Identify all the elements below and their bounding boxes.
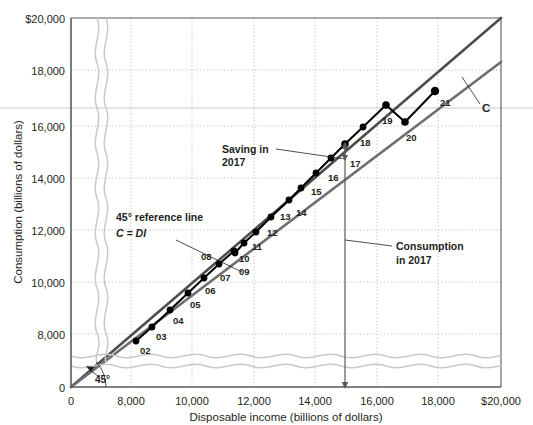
x-tick-14000: 14,000	[298, 395, 332, 407]
x-axis-tick-labels: 0 8,000 10,000 12,000 14,000 16,000 18,0…	[68, 395, 521, 407]
data-point-16	[328, 155, 335, 162]
point-label-05: 05	[190, 299, 201, 310]
angle-label: 45°	[95, 374, 110, 385]
saving-label-line2: 2017	[222, 156, 246, 168]
consumption-label-line1: Consumption	[396, 240, 464, 252]
data-point-06	[201, 275, 208, 282]
data-point-09	[232, 250, 239, 257]
y-tick-8000: 8,000	[37, 329, 65, 341]
x-axis-break-squiggle-top	[71, 354, 501, 358]
x-tick-10000: 10,000	[175, 395, 209, 407]
point-label-19: 19	[382, 115, 393, 126]
data-point-21	[431, 87, 439, 95]
x-axis-break-squiggle-bottom	[71, 364, 501, 368]
point-label-03: 03	[156, 331, 167, 342]
point-label-18: 18	[360, 137, 371, 148]
data-point-04	[167, 307, 174, 314]
consumption-label-line2: in 2017	[396, 254, 432, 266]
saving-label-line1: Saving in	[222, 143, 269, 155]
point-label-20: 20	[406, 132, 417, 143]
y-tick-10000: 10,000	[31, 277, 65, 289]
ref-line-label-line1: 45° reference line	[116, 211, 203, 223]
x-tick-12000: 12,000	[237, 395, 271, 407]
data-point-14	[298, 185, 305, 192]
consumption-measure: Consumption in 2017	[342, 142, 464, 389]
consumption-leader-line	[345, 240, 392, 246]
data-point-02	[133, 338, 140, 345]
point-label-21: 21	[440, 97, 451, 108]
data-point-03	[149, 324, 156, 331]
x-tick-18000: 18,000	[421, 395, 455, 407]
point-label-15: 15	[311, 186, 322, 197]
axis-break-marks	[71, 18, 501, 368]
x-tick-8000: 8,000	[117, 395, 145, 407]
y-tick-20000: $20,000	[25, 13, 65, 25]
point-label-04: 04	[173, 315, 184, 326]
point-label-07: 07	[220, 272, 231, 283]
data-point-05	[185, 290, 192, 297]
data-point-20	[401, 118, 409, 126]
x-tick-20000: $20,000	[481, 395, 521, 407]
x-tick-16000: 16,000	[360, 395, 394, 407]
point-label-06: 06	[205, 285, 216, 296]
reference-line-annotation: 45° reference line C = DI	[116, 211, 242, 272]
x-tick-0: 0	[68, 395, 74, 407]
chart-container: 02 03 04 05 06 07 08 09 10 11 12 13 14 1…	[0, 0, 533, 425]
point-label-11: 11	[252, 241, 263, 252]
y-tick-12000: 12,000	[31, 225, 65, 237]
point-label-02: 02	[140, 345, 151, 356]
y-axis-tick-labels: $20,000 18,000 16,000 14,000 12,000 10,0…	[25, 13, 65, 394]
x-axis-title: Disposable income (billions of dollars)	[189, 411, 382, 423]
ref-line-label-line2: C = DI	[116, 227, 147, 239]
data-point-18	[360, 124, 367, 131]
consumption-function-chart: 02 03 04 05 06 07 08 09 10 11 12 13 14 1…	[0, 0, 533, 425]
y-axis-title: Consumption (billions of dollars)	[12, 120, 24, 284]
point-label-14: 14	[296, 207, 307, 218]
point-label-17: 17	[350, 158, 361, 169]
point-label-10: 10	[239, 253, 250, 264]
y-tick-14000: 14,000	[31, 173, 65, 185]
y-tick-0: 0	[59, 382, 65, 394]
data-point-12	[268, 214, 275, 221]
data-point-11	[253, 229, 260, 236]
point-label-16: 16	[328, 172, 339, 183]
c-line-label: C	[482, 102, 490, 114]
y-tick-16000: 16,000	[31, 121, 65, 133]
data-point-10	[241, 240, 248, 247]
y-tick-18000: 18,000	[31, 65, 65, 77]
point-label-12: 12	[267, 227, 278, 238]
consumption-arrow-bottom	[342, 382, 348, 389]
point-label-13: 13	[280, 211, 291, 222]
data-point-13	[286, 197, 293, 204]
data-point-15	[313, 170, 320, 177]
data-point-19	[382, 101, 390, 109]
